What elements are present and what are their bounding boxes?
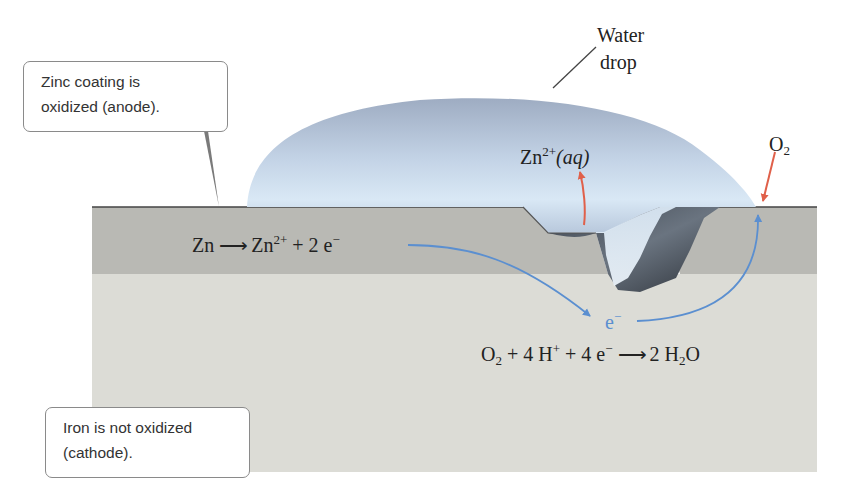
- o2-arrow: [763, 152, 775, 201]
- anode-callout-line2: oxidized (anode).: [41, 94, 217, 119]
- electron-label: e−: [605, 312, 621, 332]
- cathode-callout-line2: (cathode).: [63, 440, 239, 465]
- zn-ion-label: Zn2+(aq): [520, 147, 589, 167]
- galvanized-iron-diagram: Zinc coating is oxidized (anode). Iron i…: [0, 0, 860, 498]
- reaction-arrow-icon: ⟶: [618, 344, 645, 364]
- cathode-equation: O2 + 4 H+ + 4 e− ⟶ 2 H2O: [481, 344, 700, 364]
- water-drop-label-line1: Water: [597, 22, 644, 49]
- o2-label: O2: [769, 134, 790, 154]
- water-drop-leader: [553, 47, 596, 88]
- anode-callout-line1: Zinc coating is: [41, 69, 217, 94]
- cathode-callout-line1: Iron is not oxidized: [63, 415, 239, 440]
- anode-callout: Zinc coating is oxidized (anode).: [23, 61, 228, 132]
- anode-callout-pointer: [204, 131, 219, 207]
- anode-equation: Zn ⟶ Zn2+ + 2 e−: [192, 235, 340, 255]
- water-drop-label: Water drop: [597, 22, 644, 76]
- water-drop-label-line2: drop: [597, 49, 644, 76]
- reaction-arrow-icon: ⟶: [219, 235, 246, 255]
- cathode-callout: Iron is not oxidized (cathode).: [45, 407, 250, 478]
